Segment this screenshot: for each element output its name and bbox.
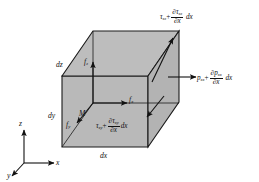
- label-moment-m: M: [79, 110, 85, 118]
- axis-y-line: [12, 163, 24, 176]
- label-axis-x: x: [56, 159, 59, 167]
- p-xx-num-sub: xx: [218, 72, 222, 77]
- tau-xz-den: ∂x: [171, 17, 183, 26]
- tau-xy-tail: dx: [121, 122, 128, 130]
- tau-xz-tail: dx: [186, 13, 193, 21]
- label-tau-xy: τxy+∂τxy∂xdx: [96, 118, 127, 134]
- p-xx-plus: +: [205, 74, 209, 82]
- label-dimension-dz: dz: [56, 61, 63, 69]
- label-force-fz: fz: [84, 58, 88, 67]
- label-axis-y: y: [7, 172, 10, 180]
- tau-xy-num-sub: xy: [115, 120, 119, 125]
- label-force-fx: fx: [129, 96, 133, 105]
- fx-sub: x: [131, 99, 133, 104]
- label-p-xx: pxx+∂pxx∂x dx: [197, 70, 232, 86]
- p-xx-fraction: ∂pxx∂x: [210, 70, 223, 86]
- fz-sub: z: [86, 61, 88, 66]
- cube-front-face: [62, 76, 148, 147]
- fluid-element-diagram: [0, 0, 259, 182]
- tau-xy-fraction: ∂τxy∂x: [108, 118, 120, 134]
- p-xx-tail: dx: [226, 74, 233, 82]
- p-xx-num: ∂p: [211, 69, 218, 77]
- label-axis-z: z: [19, 120, 22, 128]
- fy-sub: y: [68, 124, 70, 129]
- moment-base: M: [79, 109, 85, 118]
- label-dimension-dx: dx: [100, 152, 107, 160]
- tau-xz-fraction: ∂τxz∂x: [171, 9, 183, 25]
- label-dimension-dy: dy: [48, 112, 55, 120]
- tau-xy-plus: +: [103, 122, 107, 130]
- p-xx-den: ∂x: [210, 78, 223, 87]
- tau-xz-num-sub: xz: [178, 11, 182, 16]
- label-tau-xz: τxz+∂τxz∂x dx: [160, 9, 193, 25]
- tau-xz-plus: +: [166, 13, 170, 21]
- tau-xy-den: ∂x: [108, 126, 120, 135]
- label-force-fy: fy: [66, 121, 70, 130]
